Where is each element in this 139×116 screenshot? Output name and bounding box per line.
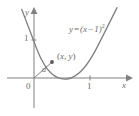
x-axis-label: x <box>122 81 126 90</box>
distance-label-d: d <box>42 66 46 74</box>
parabola-curve <box>22 8 117 80</box>
curve-equation-label: y=(x−1)2 <box>69 23 105 34</box>
parabola-distance-figure: y x 1 0 1 d (x, y) y=(x−1)2 <box>0 0 139 116</box>
x-axis-arrowhead <box>126 75 133 82</box>
y-axis <box>31 7 38 108</box>
y-axis-tick-label-1: 1 <box>24 34 29 43</box>
point-label-close-paren: ) <box>73 51 76 61</box>
x-axis-tick-label-1: 1 <box>87 82 92 91</box>
point-label-xy: (x, y) <box>57 52 76 61</box>
equation-exponent: 2 <box>102 23 105 29</box>
origin-label: 0 <box>26 82 31 91</box>
y-axis-arrowhead <box>31 7 38 14</box>
y-axis-label: y <box>25 8 29 17</box>
equation-rhs-tail: 1) <box>94 24 102 34</box>
point-marker-dot <box>50 60 54 64</box>
